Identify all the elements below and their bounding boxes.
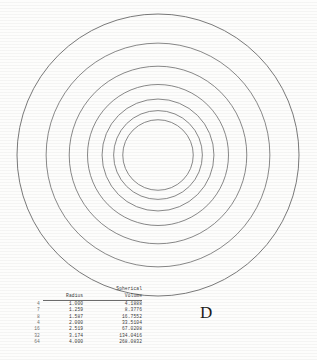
ring-circle — [69, 66, 247, 244]
radius-volume-table: Spherical Radius Volume 41.0004.188871.2… — [22, 286, 142, 345]
table-body: 41.0004.188871.2598.377681.58716.755242.… — [22, 300, 142, 345]
cell-volume: 4.1888 — [87, 300, 142, 307]
table-header: Spherical Radius Volume — [22, 286, 142, 300]
ring-circle — [114, 111, 203, 200]
figure-panel: Spherical Radius Volume 41.0004.188871.2… — [0, 0, 317, 360]
ring-circle — [88, 85, 229, 226]
table-row: 644.000268.0832 — [22, 339, 142, 345]
ring-circle — [17, 14, 299, 296]
header-volume-line1: Spherical — [87, 286, 142, 293]
ring-circle — [102, 99, 214, 211]
header-radius-blank — [43, 286, 87, 293]
table-header-row-top: Spherical — [22, 286, 142, 293]
header-radius: Radius — [43, 293, 87, 300]
table-row: 41.0004.1888 — [22, 300, 142, 307]
cell-radius: 4.000 — [43, 339, 87, 345]
header-index — [22, 293, 43, 300]
cell-volume: 268.0832 — [87, 339, 142, 345]
ring-circle — [123, 120, 194, 191]
header-index-blank — [22, 286, 43, 293]
cell-index: 4 — [22, 300, 43, 307]
cell-index: 64 — [22, 339, 43, 345]
ring-circle — [46, 43, 270, 267]
table-header-row-bottom: Radius Volume — [22, 293, 142, 300]
figure-label: D — [200, 303, 212, 323]
cell-radius: 1.000 — [43, 300, 87, 307]
header-volume-line2: Volume — [87, 293, 142, 300]
table: Spherical Radius Volume 41.0004.188871.2… — [22, 286, 142, 345]
